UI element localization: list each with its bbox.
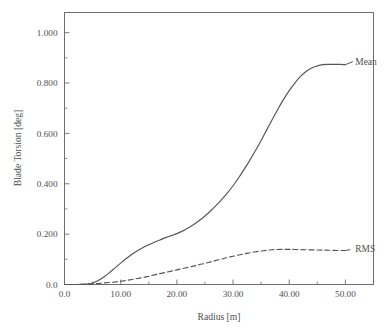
y-axis-title: Blade Torsion [deg]	[12, 110, 23, 186]
x-tick-label-5: 50.00	[335, 289, 356, 299]
y-tick-label-5: 1.000	[37, 28, 58, 38]
x-tick-label-4: 40.00	[279, 289, 300, 299]
series-label-rms: RMS	[355, 244, 375, 254]
x-tick-label-1: 10.00	[110, 289, 131, 299]
y-tick-label-2: 0.400	[37, 179, 58, 189]
x-tick-label-2: 20.00	[167, 289, 188, 299]
line-chart: 0.010.0020.0030.0040.0050.00 0.00.2000.4…	[0, 0, 390, 329]
y-tick-label-1: 0.200	[37, 229, 58, 239]
y-tick-label-0: 0.0	[46, 280, 58, 290]
x-tick-label-0: 0.0	[59, 289, 71, 299]
chart-figure: 0.010.0020.0030.0040.0050.00 0.00.2000.4…	[0, 0, 390, 329]
y-tick-label-4: 0.800	[37, 78, 58, 88]
chart-background	[0, 0, 390, 329]
series-label-mean: Mean	[355, 57, 377, 67]
x-tick-label-3: 30.00	[223, 289, 244, 299]
y-tick-label-3: 0.600	[37, 129, 58, 139]
x-axis-title: Radius [m]	[198, 311, 241, 322]
